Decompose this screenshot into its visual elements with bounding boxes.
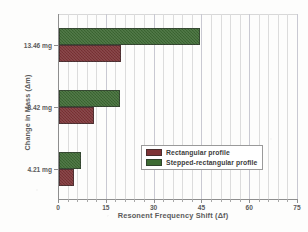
- x-axis-tick: [230, 199, 231, 202]
- x-axis-tick: [154, 199, 155, 203]
- bar: [59, 107, 94, 124]
- x-axis-tick: [249, 199, 250, 203]
- x-axis-tick-label: 75: [293, 204, 300, 211]
- x-axis-tick-label: 15: [102, 204, 109, 211]
- gridline: [278, 14, 279, 200]
- x-axis-tick: [182, 199, 183, 202]
- legend-item: Stepped-rectangular profile: [146, 159, 257, 166]
- plot-area: 4.21 mg8.42 mg13.46 mg 01530456075: [58, 14, 298, 200]
- chart-figure: Change in Mass (Δm) 4.21 mg8.42 mg13.46 …: [0, 0, 308, 232]
- y-axis-tick-label: 8.42 mg: [27, 104, 52, 111]
- x-axis-title: Resonent Frequency Shift (Δf): [58, 211, 288, 220]
- y-axis-tick-label: 13.46 mg: [24, 42, 52, 49]
- legend-item: Rectangular profile: [146, 149, 257, 156]
- bar: [59, 90, 120, 107]
- x-axis-tick: [268, 199, 269, 202]
- x-axis-tick-label: 45: [198, 204, 205, 211]
- legend-swatch: [146, 159, 162, 166]
- gridline: [268, 14, 269, 200]
- x-axis-tick-label: 30: [150, 204, 157, 211]
- plot-frame-top: [58, 14, 298, 15]
- x-axis-tick: [58, 199, 59, 203]
- bar: [59, 152, 81, 169]
- x-axis-tick: [134, 199, 135, 202]
- x-axis-tick: [96, 199, 97, 202]
- legend-swatch: [146, 149, 162, 156]
- bar: [59, 45, 121, 62]
- x-axis-tick: [192, 199, 193, 202]
- x-axis-tick: [297, 199, 298, 203]
- x-axis-tick: [211, 199, 212, 202]
- x-axis-tick: [278, 199, 279, 202]
- x-axis-tick: [144, 199, 145, 202]
- x-axis-tick: [163, 199, 164, 202]
- gridline: [221, 14, 222, 200]
- x-axis-line: [58, 199, 298, 200]
- x-axis-tick: [125, 199, 126, 202]
- chart-legend: Rectangular profileStepped-rectangular p…: [141, 145, 263, 170]
- x-axis-tick: [287, 199, 288, 202]
- x-axis-tick: [221, 199, 222, 202]
- y-axis-tick: [54, 169, 58, 170]
- x-axis-tick: [201, 199, 202, 203]
- x-axis-tick: [77, 199, 78, 202]
- x-axis-tick-label: 60: [246, 204, 253, 211]
- gridline: [259, 14, 260, 200]
- x-axis-tick: [106, 199, 107, 203]
- gridline: [201, 14, 202, 200]
- x-axis-tick: [240, 199, 241, 202]
- y-axis-tick: [54, 107, 58, 108]
- gridline: [297, 14, 298, 200]
- x-axis-tick-label: 0: [56, 204, 60, 211]
- gridline: [230, 14, 231, 200]
- gridline: [211, 14, 212, 200]
- x-axis-tick: [115, 199, 116, 202]
- bar: [59, 169, 74, 186]
- y-axis-tick-label: 4.21 mg: [27, 166, 52, 173]
- gridline: [287, 14, 288, 200]
- legend-label: Rectangular profile: [166, 149, 230, 156]
- legend-label: Stepped-rectangular profile: [166, 159, 257, 166]
- x-axis-tick: [173, 199, 174, 202]
- y-axis-tick: [54, 45, 58, 46]
- x-axis-tick: [87, 199, 88, 202]
- gridline: [249, 14, 250, 200]
- x-axis-tick: [68, 199, 69, 202]
- gridline: [240, 14, 241, 200]
- bar: [59, 28, 200, 45]
- x-axis-tick: [259, 199, 260, 202]
